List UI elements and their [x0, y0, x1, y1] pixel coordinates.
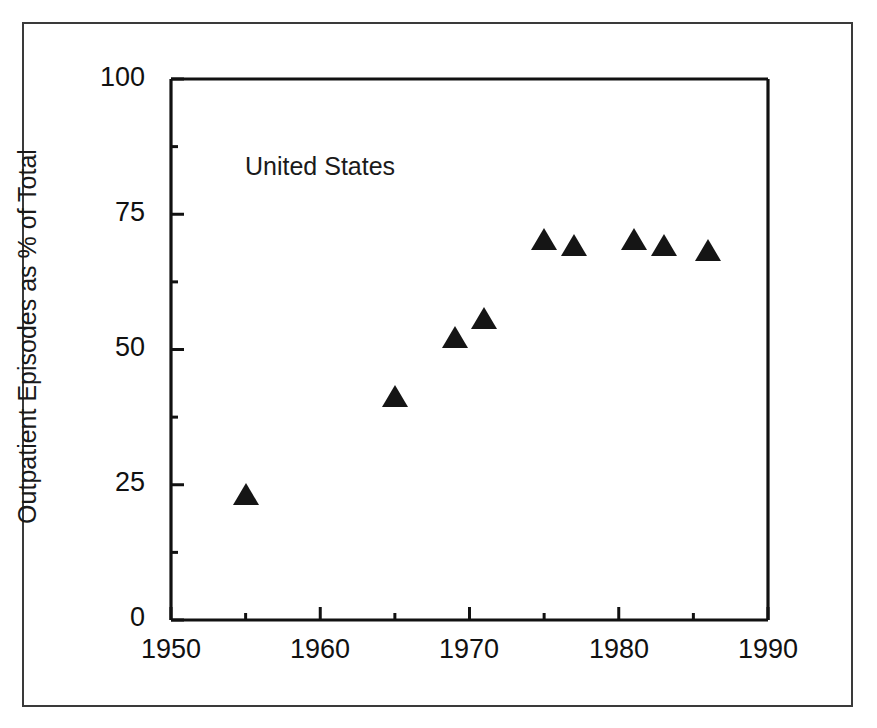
y-tick-label-0: 0: [55, 602, 145, 633]
data-point-marker: [382, 385, 408, 407]
data-point-marker: [561, 234, 587, 256]
data-point-marker: [233, 483, 259, 505]
y-tick-label-75: 75: [55, 197, 145, 228]
data-point-marker: [471, 307, 497, 329]
y-tick-label-100: 100: [55, 62, 145, 93]
data-point-marker: [695, 239, 721, 261]
x-tick-label-1990: 1990: [708, 634, 828, 665]
x-tick-label-1960: 1960: [260, 634, 380, 665]
data-point-marker: [651, 234, 677, 256]
x-tick-label-1980: 1980: [559, 634, 679, 665]
y-axis-title: Outpatient Episodes as % of Total: [13, 122, 42, 552]
series-annotation-united-states: United States: [245, 152, 395, 181]
data-point-marker: [621, 228, 647, 250]
y-tick-label-50: 50: [55, 332, 145, 363]
data-point-marker: [442, 326, 468, 348]
x-tick-label-1970: 1970: [409, 634, 529, 665]
x-tick-label-1950: 1950: [111, 634, 231, 665]
data-point-marker: [531, 228, 557, 250]
y-tick-label-25: 25: [55, 467, 145, 498]
figure-container: Outpatient Episodes as % of Total 100 75…: [0, 0, 877, 728]
